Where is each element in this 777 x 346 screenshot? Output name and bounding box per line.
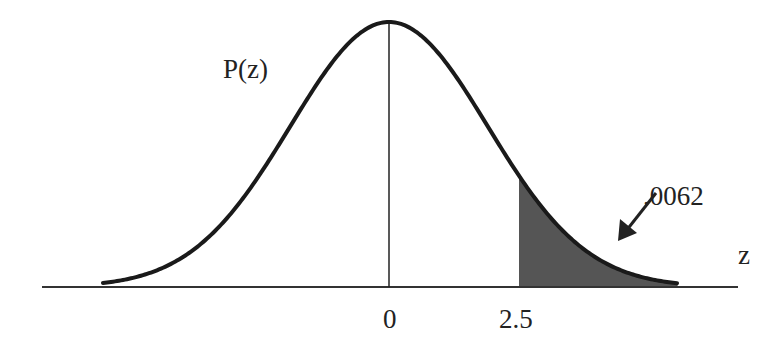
- axis-label-z: z: [738, 240, 750, 270]
- area-label: .0062: [643, 181, 704, 211]
- bell-curve: [103, 22, 677, 283]
- curve-label: P(z): [223, 54, 268, 84]
- normal-distribution-figure: P(z) .0062 z 0 2.5: [0, 0, 777, 346]
- tick-label-2-5: 2.5: [499, 304, 533, 334]
- tick-label-0: 0: [383, 304, 397, 334]
